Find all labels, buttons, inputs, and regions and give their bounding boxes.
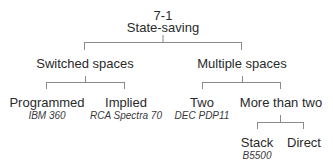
node-programmed: Programmed xyxy=(9,96,84,110)
node-more-than-two: More than two xyxy=(240,96,322,110)
example-rca-spectra70: RCA Spectra 70 xyxy=(90,110,162,121)
node-direct: Direct xyxy=(287,136,321,150)
example-dec-pdp11: DEC PDP11 xyxy=(175,110,230,121)
example-b5500: B5500 xyxy=(243,150,272,161)
node-switched-spaces: Switched spaces xyxy=(36,57,134,71)
node-two: Two xyxy=(190,96,214,110)
node-multiple-spaces: Multiple spaces xyxy=(197,57,287,71)
example-ibm360: IBM 360 xyxy=(28,110,65,121)
root-label: State-saving xyxy=(127,21,199,35)
node-implied: Implied xyxy=(105,96,147,110)
node-stack: Stack xyxy=(241,136,274,150)
